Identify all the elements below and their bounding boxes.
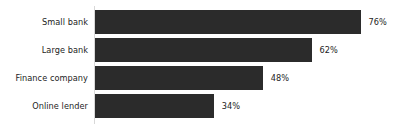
bar-online-lender: [95, 94, 214, 118]
bar-group-small-bank: 76%: [95, 10, 387, 34]
category-label-online-lender: Online lender: [0, 101, 88, 111]
chart-row: Finance company 48%: [0, 66, 406, 90]
bar-group-online-lender: 34%: [95, 94, 240, 118]
category-label-small-bank: Small bank: [0, 17, 88, 27]
bar-large-bank: [95, 38, 312, 62]
bar-group-large-bank: 62%: [95, 38, 338, 62]
value-label-finance-company: 48%: [271, 73, 289, 83]
value-label-online-lender: 34%: [222, 101, 240, 111]
value-label-small-bank: 76%: [369, 17, 387, 27]
chart-row: Large bank 62%: [0, 38, 406, 62]
chart-row: Online lender 34%: [0, 94, 406, 118]
plot-area: Small bank 76% Large bank 62% Finance co…: [0, 0, 406, 132]
value-label-large-bank: 62%: [320, 45, 338, 55]
bar-group-finance-company: 48%: [95, 66, 289, 90]
chart-row: Small bank 76%: [0, 10, 406, 34]
bar-finance-company: [95, 66, 263, 90]
category-label-large-bank: Large bank: [0, 45, 88, 55]
bar-small-bank: [95, 10, 361, 34]
category-label-finance-company: Finance company: [0, 73, 88, 83]
bar-chart: Small bank 76% Large bank 62% Finance co…: [0, 0, 406, 132]
